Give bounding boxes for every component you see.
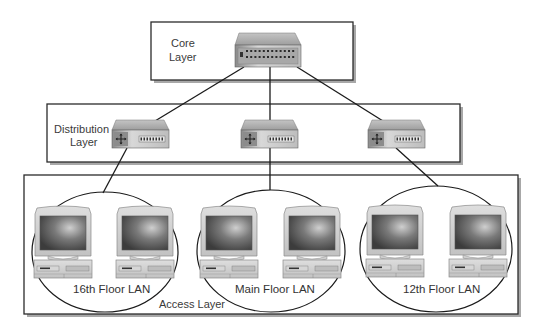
lan-label-16th-floor: 16th Floor LAN (73, 283, 150, 295)
computer-icon (116, 206, 174, 278)
distribution-layer-label-line1: Distribution (54, 123, 109, 135)
distribution-switch-1-icon (112, 120, 169, 148)
computer-icon (449, 205, 507, 277)
access-layer-label: Access Layer (159, 298, 225, 310)
distribution-switch-2-icon (241, 120, 298, 148)
access-layer-box (24, 175, 521, 317)
computer-icon (200, 206, 258, 278)
distribution-layer-label-line2: Layer (70, 136, 98, 148)
distribution-switch-3-icon (368, 120, 425, 148)
computer-icon (283, 206, 341, 278)
network-diagram: Core Layer Distribution Layer 16th Floor… (0, 0, 542, 336)
lan-label-12th-floor: 12th Floor LAN (403, 283, 480, 295)
lan-label-main-floor: Main Floor LAN (235, 283, 315, 295)
core-layer-label-line1: Core (171, 37, 195, 49)
core-layer-label-line2: Layer (169, 51, 197, 63)
computer-icon (366, 205, 424, 277)
core-switch-icon (235, 33, 301, 67)
computer-icon (34, 206, 92, 278)
